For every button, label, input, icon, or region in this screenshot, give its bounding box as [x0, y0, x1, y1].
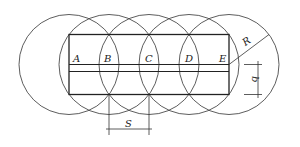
width-label: b [250, 76, 261, 82]
point-label-b: B [103, 53, 111, 64]
radius-label: R [239, 34, 253, 48]
coverage-diagram: A B C D E R S b [0, 0, 300, 147]
point-label-c: C [145, 53, 153, 64]
point-label-d: D [184, 53, 193, 64]
spacing-label: S [125, 118, 132, 129]
point-label-e: E [218, 53, 227, 64]
point-label-a: A [72, 53, 80, 64]
